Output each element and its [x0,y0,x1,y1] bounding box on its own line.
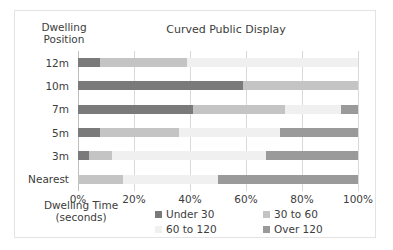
y-axis-category-labels: 12m10m7m5m3mNearest [15,51,74,191]
x-axis-tick-80: 80% [290,193,313,205]
legend-swatch-icon [155,211,162,218]
legend-swatch-icon [263,226,270,233]
x-axis-tick-40: 40% [178,193,201,205]
bar-segment [193,105,285,114]
plot-area [78,51,358,191]
bar-row [78,98,358,121]
y-axis-label-4: 3m [15,144,74,167]
bar-segment [78,151,89,160]
bar-segment [341,105,358,114]
bar-segment [266,151,358,160]
stacked-bar [78,151,358,160]
legend-item-1[interactable]: 30 to 60 [263,208,371,220]
chart-card: Dwelling Position Curved Public Display … [14,10,376,238]
y-axis-label-1: 10m [15,74,74,97]
legend: Under 3030 to 6060 to 120Over 120 [155,208,371,235]
bar-row [78,51,358,74]
bar-row [78,144,358,167]
legend-item-0[interactable]: Under 30 [155,208,263,220]
legend-label: Over 120 [274,223,323,235]
stacked-bar [78,81,358,90]
bar-row [78,168,358,191]
bar-segment [78,128,100,137]
y-axis-label-0: 12m [15,51,74,74]
legend-item-2[interactable]: 60 to 120 [155,223,263,235]
bar-segment [285,105,341,114]
bar-row [78,74,358,97]
bar-segment [179,128,280,137]
bar-segment [78,81,243,90]
bar-segment [78,175,123,184]
bar-segment [243,81,358,90]
stacked-bar [78,105,358,114]
legend-label: 30 to 60 [274,208,318,220]
y-axis-label-3: 5m [15,121,74,144]
bar-segment [280,128,358,137]
bar-row [78,121,358,144]
y-axis-label-5: Nearest [15,168,74,191]
stacked-bar [78,58,358,67]
bar-segment [100,58,187,67]
bar-segment [78,58,100,67]
legend-item-3[interactable]: Over 120 [263,223,371,235]
bar-segment [100,128,178,137]
chart-title: Curved Public Display [111,23,341,36]
bar-segment [89,151,111,160]
bar-segment [78,105,193,114]
stacked-bar [78,128,358,137]
legend-swatch-icon [263,211,270,218]
bar-segment [218,175,358,184]
legend-swatch-icon [155,226,162,233]
x-axis-title: Dwelling Time (seconds) [21,199,141,223]
bar-segment [123,175,218,184]
bar-segment [187,58,358,67]
legend-label: Under 30 [166,208,214,220]
bar-segment [112,151,266,160]
gridline-100 [358,51,359,191]
y-axis-title: Dwelling Position [23,21,105,45]
x-axis-tick-100: 100% [343,193,373,205]
y-axis-label-2: 7m [15,98,74,121]
legend-label: 60 to 120 [166,223,217,235]
bar-rows [78,51,358,191]
stacked-bar [78,175,358,184]
x-axis-tick-60: 60% [234,193,257,205]
